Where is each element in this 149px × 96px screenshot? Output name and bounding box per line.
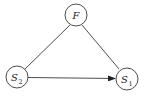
node-s2-label: S (11, 72, 18, 83)
edge-f-s2 (25, 25, 70, 69)
node-s2-subscript: 2 (19, 78, 23, 86)
edge-f-s1 (82, 25, 119, 69)
node-s1-subscript: 1 (129, 80, 133, 88)
node-s1: S 1 (116, 68, 138, 90)
graph-diagram: F S 2 S 1 (0, 0, 149, 96)
edge-s2-s1-arrow (28, 78, 115, 79)
node-f-label: F (72, 10, 81, 21)
node-s1-label: S (121, 74, 128, 85)
node-s2: S 2 (6, 66, 28, 88)
node-f: F (65, 4, 87, 26)
